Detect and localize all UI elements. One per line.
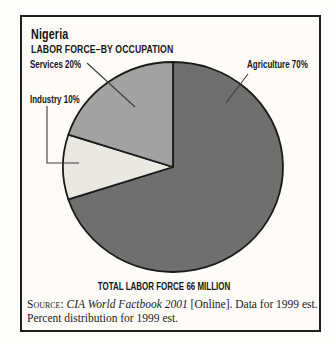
source-line-1-rest: [Online]. Data for 1999 est. [188, 298, 318, 310]
chart-subtitle: LABOR FORCE–BY OCCUPATION [31, 44, 173, 55]
source-note: Source: CIA World Factbook 2001 [Online]… [27, 297, 318, 325]
agriculture-slice-label: Agriculture 70% [247, 58, 308, 70]
services-slice-label: Services 20% [30, 58, 81, 70]
industry-slice-label: Industry 10% [30, 93, 80, 105]
chart-title: Nigeria [31, 26, 68, 42]
source-line-2: Percent distribution for 1999 est. [27, 311, 318, 325]
figure-background: Nigeria LABOR FORCE–BY OCCUPATION Servic… [0, 0, 333, 345]
pie-slices [63, 62, 283, 272]
source-line-1: Source: CIA World Factbook 2001 [Online]… [27, 297, 318, 311]
total-labor-force-label: TOTAL LABOR FORCE 66 MILLION [50, 280, 278, 292]
source-book-title: CIA World Factbook 2001 [67, 298, 188, 310]
source-prefix: Source: [27, 298, 64, 310]
